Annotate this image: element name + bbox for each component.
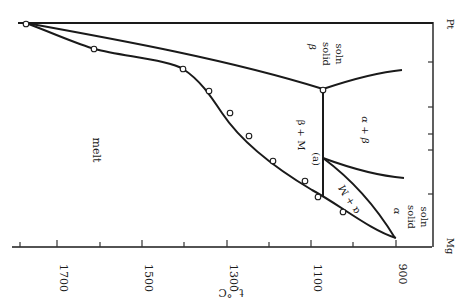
region-alpha-ss-3: soln bbox=[419, 207, 430, 228]
data-points bbox=[23, 21, 346, 215]
component-mg: Mg bbox=[445, 238, 456, 255]
tick-label-900: 900 bbox=[396, 264, 409, 285]
tick-label-1700: 1700 bbox=[57, 264, 70, 292]
region-beta-ss-1: β bbox=[307, 43, 318, 50]
region-alpha-beta: α + β bbox=[360, 116, 371, 143]
region-alpha-ss-1: α bbox=[392, 208, 403, 215]
axis-title: t, °C bbox=[218, 286, 243, 299]
tick-label-1500: 1500 bbox=[142, 264, 155, 292]
region-melt: melt bbox=[90, 138, 103, 163]
region-beta-ss-2: solid bbox=[321, 42, 332, 67]
region-alpha-ss-2: solid bbox=[406, 205, 417, 230]
component-pt: Pt bbox=[445, 19, 456, 30]
beta-solvus-upper bbox=[323, 70, 402, 89]
region-beta-m: β + M bbox=[296, 120, 307, 151]
point-a-label: (a) bbox=[311, 152, 322, 166]
region-beta-ss-3: soln bbox=[334, 44, 345, 65]
beta-solidus-curve bbox=[26, 23, 323, 89]
phase-diagram: 1700 1500 1300 1100 900 t, °C Mg Pt melt… bbox=[0, 0, 465, 303]
tick-label-1100: 1100 bbox=[311, 264, 324, 292]
axis-ticks bbox=[20, 62, 433, 247]
